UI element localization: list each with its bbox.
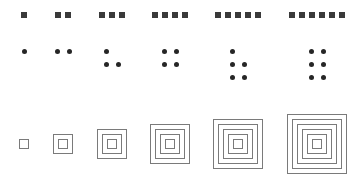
dot-icon: [55, 49, 60, 54]
nested-square-outline: [287, 114, 347, 174]
filled-square-icon: [309, 12, 315, 18]
filled-square-icon: [235, 12, 241, 18]
dot-icon: [321, 49, 326, 54]
dot-icon: [230, 62, 235, 67]
filled-square-icon: [255, 12, 261, 18]
dot-icon: [309, 75, 314, 80]
filled-square-icon: [245, 12, 251, 18]
filled-square-icon: [319, 12, 325, 18]
dot-icon: [104, 49, 109, 54]
filled-square-icon: [21, 12, 27, 18]
dot-icon: [242, 75, 247, 80]
dot-icon: [116, 62, 121, 67]
filled-square-icon: [99, 12, 105, 18]
filled-square-icon: [299, 12, 305, 18]
dot-icon: [67, 49, 72, 54]
filled-square-icon: [182, 12, 188, 18]
dot-icon: [162, 49, 167, 54]
filled-square-icon: [289, 12, 295, 18]
filled-square-icon: [172, 12, 178, 18]
dot-icon: [230, 49, 235, 54]
nested-square-outline: [150, 124, 190, 164]
nested-square-outline: [19, 139, 29, 149]
nested-square-outline: [53, 134, 73, 154]
filled-square-icon: [329, 12, 335, 18]
sequence-diagram: [0, 0, 363, 184]
dot-icon: [321, 62, 326, 67]
dot-icon: [104, 62, 109, 67]
dot-icon: [22, 49, 27, 54]
filled-square-icon: [225, 12, 231, 18]
dot-icon: [230, 75, 235, 80]
dot-icon: [321, 75, 326, 80]
dot-icon: [309, 49, 314, 54]
filled-square-icon: [65, 12, 71, 18]
dot-icon: [162, 62, 167, 67]
filled-square-icon: [55, 12, 61, 18]
dot-icon: [309, 62, 314, 67]
filled-square-icon: [162, 12, 168, 18]
dot-icon: [242, 62, 247, 67]
filled-square-icon: [339, 12, 345, 18]
filled-square-icon: [152, 12, 158, 18]
dot-icon: [174, 49, 179, 54]
filled-square-icon: [119, 12, 125, 18]
filled-square-icon: [109, 12, 115, 18]
filled-square-icon: [215, 12, 221, 18]
nested-square-outline: [97, 129, 127, 159]
dot-icon: [174, 62, 179, 67]
nested-square-outline: [213, 119, 263, 169]
